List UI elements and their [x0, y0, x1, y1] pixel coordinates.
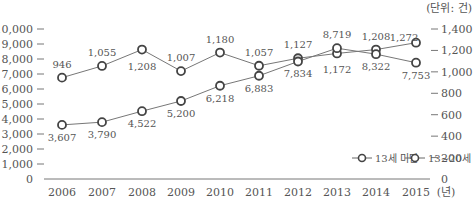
left-axis-tick-label: 9,000 [2, 38, 34, 51]
data-label: 1,172 [323, 64, 352, 75]
x-axis-tick-label: 2013 [323, 186, 351, 199]
data-point-marker-icon [177, 97, 185, 105]
data-label: 8,719 [323, 29, 352, 40]
x-axis-tick-label: 2011 [245, 186, 273, 199]
data-label: 8,322 [362, 61, 391, 72]
data-point-marker-icon [412, 59, 420, 67]
data-point-marker-icon [372, 50, 380, 58]
data-label: 1,055 [88, 47, 117, 58]
left-axis-tick-label: 3,000 [2, 128, 34, 141]
right-axis-tick-label: 1,400 [441, 23, 473, 36]
unit-label: (단위: 건) [426, 2, 472, 15]
data-point-marker-icon [216, 82, 224, 90]
x-axis-tick-label: 2010 [206, 186, 234, 199]
x-axis-tick-label: 2007 [88, 186, 116, 199]
data-label: 1,007 [167, 52, 196, 63]
data-point-marker-icon [138, 46, 146, 54]
left-axis-tick-label: 2,000 [2, 143, 34, 156]
data-label: 946 [52, 59, 71, 70]
x-axis-tick-label: 2012 [284, 186, 312, 199]
data-point-marker-icon [58, 121, 66, 129]
left-axis-tick-label: 0 [26, 173, 33, 186]
left-axis-tick-label: 5,000 [2, 98, 34, 111]
data-label: 1,057 [245, 47, 274, 58]
x-axis-tick-label: 2008 [128, 186, 156, 199]
right-axis-tick-label: 0 [441, 173, 448, 186]
x-axis: 2006200720082009201020112012201320142015… [48, 186, 455, 199]
data-point-marker-icon [255, 72, 263, 80]
data-label: 3,607 [48, 132, 77, 143]
legend-label-13to20: 13~20세 [428, 153, 471, 164]
data-label: 1,127 [284, 39, 313, 50]
x-axis-tick-label: 2014 [362, 186, 390, 199]
data-label: 5,200 [167, 108, 196, 119]
left-axis-tick-label: 1,000 [2, 158, 34, 171]
data-point-marker-icon [177, 67, 185, 75]
series-line [62, 48, 416, 125]
data-point-marker-icon [255, 62, 263, 70]
data-label: 7,753 [402, 70, 431, 81]
data-point-marker-icon [294, 57, 302, 65]
data-point-marker-icon [98, 62, 106, 70]
right-axis-tick-label: 1,000 [441, 66, 473, 79]
left-axis-tick-label: 4,000 [2, 113, 34, 126]
right-axis-tick-label: 400 [441, 130, 462, 143]
legend-marker-icon [412, 155, 419, 162]
x-axis-tick-label: 2006 [48, 186, 76, 199]
x-axis-tick-label: 2009 [167, 186, 195, 199]
legend-marker-icon [359, 155, 366, 162]
legend: 13세 미만 13~20세 [352, 153, 471, 164]
data-point-marker-icon [98, 118, 106, 126]
data-point-marker-icon [58, 74, 66, 82]
data-point-marker-icon [216, 49, 224, 57]
data-label: 1,208 [128, 61, 157, 72]
data-label: 7,834 [284, 68, 313, 79]
right-axis-tick-label: 1,200 [441, 44, 473, 57]
left-axis-tick-label: 10,000 [0, 23, 33, 36]
data-point-marker-icon [333, 44, 341, 52]
data-label: 1,208 [362, 31, 391, 42]
data-label: 6,218 [206, 93, 235, 104]
line-chart: (단위: 건) 10,0009,0008,0007,0006,0005,0004… [0, 0, 476, 209]
left-y-axis: 10,0009,0008,0007,0006,0005,0004,0003,00… [0, 23, 44, 186]
data-label: 6,883 [245, 83, 274, 94]
right-axis-tick-label: 600 [441, 109, 462, 122]
left-axis-tick-label: 7,000 [2, 68, 34, 81]
data-label: 4,522 [128, 118, 157, 129]
x-axis-tick-label: 2015 [402, 186, 430, 199]
data-point-marker-icon [138, 107, 146, 115]
right-axis-tick-label: 800 [441, 87, 462, 100]
series-group: 9461,0551,2081,0071,1801,0571,1271,1721,… [48, 29, 431, 143]
data-label: 3,790 [88, 129, 117, 140]
left-axis-tick-label: 6,000 [2, 83, 34, 96]
left-axis-tick-label: 8,000 [2, 53, 34, 66]
x-axis-unit: (년) [437, 186, 456, 199]
data-label: 1,272 [390, 32, 419, 43]
data-label: 1,180 [206, 34, 235, 45]
